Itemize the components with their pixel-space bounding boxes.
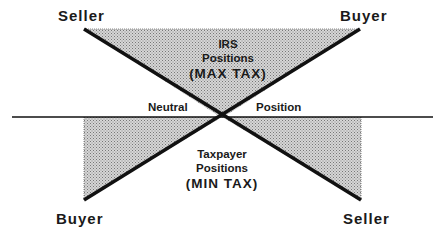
- irs-line-2: Positions: [189, 52, 267, 66]
- taxpayer-line-3: (MIN TAX): [186, 176, 259, 192]
- position-label: Position: [256, 101, 301, 113]
- neutral-label: Neutral: [148, 101, 188, 113]
- irs-positions-text: IRS Positions (MAX TAX): [189, 38, 267, 82]
- diagram-canvas: [0, 0, 443, 239]
- top-right-buyer-label: Buyer: [340, 7, 388, 24]
- taxpayer-line-1: Taxpayer: [186, 148, 259, 162]
- taxpayer-positions-text: Taxpayer Positions (MIN TAX): [186, 148, 259, 192]
- irs-line-1: IRS: [189, 38, 267, 52]
- bottom-left-buyer-label: Buyer: [56, 210, 104, 227]
- top-left-seller-label: Seller: [58, 7, 105, 24]
- taxpayer-line-2: Positions: [186, 162, 259, 176]
- irs-line-3: (MAX TAX): [189, 66, 267, 82]
- bottom-right-seller-label: Seller: [343, 210, 390, 227]
